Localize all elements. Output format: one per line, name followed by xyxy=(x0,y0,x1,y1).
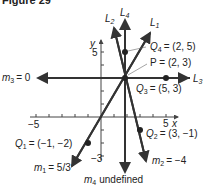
q1-label: Q1= (−1, −2) xyxy=(15,138,72,150)
point-q4 xyxy=(122,49,128,55)
y-tick-neg3: −3 xyxy=(91,153,103,164)
y-tick-5: 5 xyxy=(92,47,98,58)
q3-label: Q3= (5, 3) xyxy=(136,83,182,95)
m3-label: m3= 0 xyxy=(2,72,31,84)
p-label: P = (2, 3) xyxy=(150,57,191,68)
point-q2 xyxy=(137,127,143,133)
point-p xyxy=(122,75,128,81)
point-q1 xyxy=(85,140,91,146)
l4-label: L4 xyxy=(120,7,130,19)
m2-label: m2= −4 xyxy=(152,155,187,167)
l2-label: L2 xyxy=(105,13,115,25)
m1-label: m1= 5/3 xyxy=(34,162,71,174)
l3-label: L3 xyxy=(193,73,203,85)
q4-label: Q4= (2, 5) xyxy=(150,41,196,53)
m4-label: m4undefined xyxy=(84,174,143,186)
diagram: y 5 −3 5 x −5 L2 L4 L1 L3 Q4= (2, 5) P =… xyxy=(0,0,204,187)
point-q3 xyxy=(163,75,169,81)
l1-label: L1 xyxy=(150,17,160,29)
q2-label: Q2= (3, −1) xyxy=(146,128,198,140)
x-axis xyxy=(30,114,178,117)
y-axis xyxy=(101,40,104,160)
x-tick-neg5: −5 xyxy=(28,119,40,130)
